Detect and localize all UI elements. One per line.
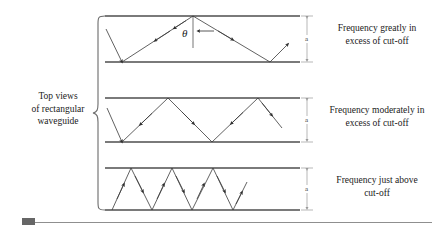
- waveguide-1-group: [105, 16, 313, 62]
- caption-frequency-greatly-in-excess: Frequency greatly in excess of cut-off: [318, 22, 436, 47]
- waveguide-3-ray-arrow-7: [236, 192, 242, 204]
- waveguide-2-group: [105, 98, 313, 142]
- waveguide-1-ray-exit: [270, 44, 288, 62]
- waveguide-figure: Frequency greatly in excess of cut-off F…: [0, 0, 440, 233]
- dimension-label-a-waveguide-2: a: [305, 116, 309, 124]
- waveguide-1-ray-entry: [106, 29, 122, 62]
- waveguide-2-ray-arrow-3: [231, 112, 243, 124]
- waveguide-3-ray-arrow-5: [197, 184, 204, 199]
- footer-divider: [22, 222, 432, 223]
- waveguide-2-ray-arrow-1: [140, 113, 152, 125]
- label-top-views-of-rectangular-waveguide: Top views of rectangular waveguide: [18, 90, 98, 128]
- waveguide-3-ray-arrow-6: [217, 176, 225, 192]
- waveguide-3-ray-segment-6: [213, 168, 233, 210]
- waveguide-2-ray-entry: [107, 108, 122, 142]
- dimension-label-a-waveguide-3: a: [305, 185, 309, 193]
- waveguide-3-ray-arrow-1: [117, 184, 124, 199]
- caption-frequency-just-above-cutoff: Frequency just above cut-off: [318, 174, 436, 199]
- waveguide-2-ray-arrow-4: [262, 103, 272, 116]
- waveguide-3-ray-arrow-3: [157, 184, 164, 199]
- waveguide-3-group: [105, 168, 313, 210]
- dimension-label-a-waveguide-1: a: [305, 35, 309, 43]
- waveguide-3-ray-arrow-4: [176, 176, 184, 192]
- waveguide-1-ray-arrow-1: [155, 31, 170, 41]
- waveguide-3-ray-segment-4: [172, 168, 192, 210]
- footer-marker-block: [22, 218, 35, 225]
- caption-frequency-moderately-in-excess: Frequency moderately in excess of cut-of…: [318, 104, 436, 129]
- waveguide-1-ray-arrow-2: [218, 31, 233, 40]
- waveguide-3-ray-arrow-2: [135, 176, 143, 192]
- waveguide-2-ray-arrow-2: [182, 112, 194, 124]
- waveguide-3-ray-segment-5: [192, 168, 213, 210]
- theta-angle-label: θ: [182, 27, 187, 39]
